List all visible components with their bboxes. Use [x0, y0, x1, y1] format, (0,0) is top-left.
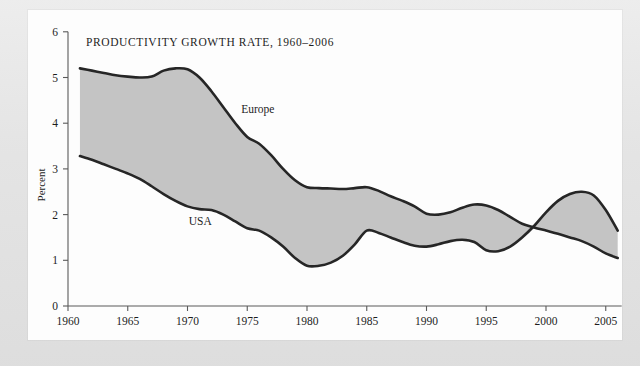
y-tick-label: 0: [52, 300, 58, 312]
y-axis-ticks: 0123456: [52, 26, 68, 312]
series-annotation-europe: Europe: [241, 103, 274, 116]
y-tick-label: 2: [52, 209, 58, 221]
series-annotation-usa: USA: [189, 215, 213, 227]
y-axis-title: Percent: [35, 169, 47, 202]
x-tick-label: 1975: [236, 315, 259, 327]
x-tick-label: 1970: [176, 315, 199, 327]
y-tick-label: 1: [52, 254, 58, 266]
y-tick-label: 3: [52, 163, 58, 175]
chart-card: 0123456 19601965197019751980198519901995…: [28, 10, 622, 340]
x-axis-ticks: 1960196519701975198019851990199520002005: [57, 306, 618, 327]
y-tick-label: 5: [52, 72, 58, 84]
x-tick-label: 1960: [57, 315, 80, 327]
x-tick-label: 1980: [296, 315, 319, 327]
x-tick-label: 2000: [535, 315, 558, 327]
y-tick-label: 4: [52, 117, 58, 129]
x-tick-label: 1985: [355, 315, 378, 327]
x-tick-label: 2005: [594, 315, 617, 327]
x-tick-label: 1965: [116, 315, 139, 327]
area-fill-between-series: [80, 68, 618, 266]
productivity-growth-chart: 0123456 19601965197019751980198519901995…: [28, 10, 622, 340]
x-tick-label: 1995: [475, 315, 498, 327]
y-tick-label: 6: [52, 26, 58, 38]
chart-title: PRODUCTIVITY GROWTH RATE, 1960–2006: [86, 36, 334, 49]
screenshot-root: 0123456 19601965197019751980198519901995…: [0, 0, 640, 366]
x-tick-label: 1990: [415, 315, 438, 327]
